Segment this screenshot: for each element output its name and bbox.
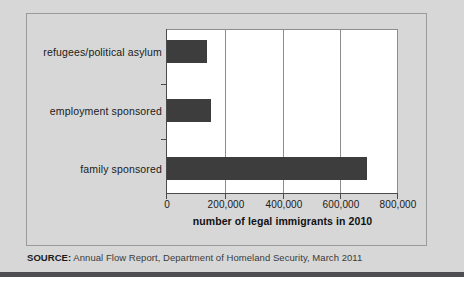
category-label-family-sponsored: family sponsored: [22, 163, 162, 175]
x-axis-title: number of legal immigrants in 2010: [167, 215, 398, 227]
x-tick-label-600000: 600,000: [323, 199, 360, 210]
bar-family-sponsored: [167, 157, 367, 180]
category-label-refugees-political-asylum: refugees/political asylum: [22, 46, 162, 58]
bottom-white-strip: [0, 277, 464, 289]
bar-employment-sponsored: [167, 99, 211, 122]
x-tick-label-200000: 200,000: [208, 199, 245, 210]
y-axis-line: [166, 29, 167, 194]
bar-refugees-political-asylum: [167, 40, 207, 63]
y-axis-category-labels: refugees/political asylum employment spo…: [20, 0, 162, 233]
x-tick-label-0: 0: [164, 199, 170, 210]
source-note: SOURCE: Annual Flow Report, Department o…: [27, 252, 362, 263]
chart-figure: refugees/political asylum employment spo…: [0, 0, 464, 289]
source-text: Annual Flow Report, Department of Homela…: [71, 252, 362, 263]
plot-frame-right-edge: [397, 29, 398, 194]
x-tick-label-400000: 400,000: [266, 199, 303, 210]
source-label: SOURCE:: [27, 252, 71, 263]
x-axis-line: [166, 193, 398, 194]
x-tick-label-800000: 800,000: [380, 199, 417, 210]
category-label-employment-sponsored: employment sponsored: [22, 105, 162, 117]
